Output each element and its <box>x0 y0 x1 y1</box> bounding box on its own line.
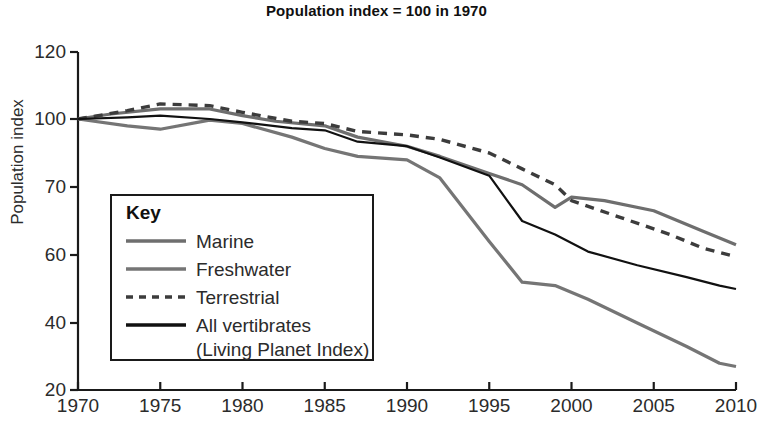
legend-swatch-freshwater <box>124 262 188 276</box>
legend-label: All vertibrates <box>196 316 311 335</box>
chart-legend: Key MarineFreshwaterTerrestrialAll verti… <box>110 194 374 361</box>
legend-label: Marine <box>196 232 254 251</box>
legend-title: Key <box>126 202 161 224</box>
legend-swatch-terrestrial <box>124 290 188 304</box>
legend-swatch-marine <box>124 234 188 248</box>
legend-label: Terrestrial <box>196 288 279 307</box>
legend-item: Marine <box>124 228 254 254</box>
legend-item: Terrestrial <box>124 284 279 310</box>
legend-item: Freshwater <box>124 256 291 282</box>
legend-label: Freshwater <box>196 260 291 279</box>
legend-item: All vertibrates <box>124 312 311 338</box>
legend-swatch-all <box>124 318 188 332</box>
legend-item-sublabel: (Living Planet Index) <box>196 340 369 359</box>
